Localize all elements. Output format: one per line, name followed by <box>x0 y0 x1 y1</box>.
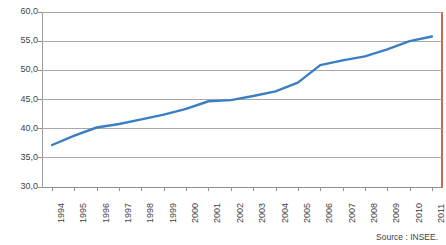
y-axis-tick-label: 35,0 <box>2 153 38 162</box>
x-axis-tick-label: 2005 <box>302 203 312 223</box>
x-axis-tick-label: 2008 <box>369 203 379 223</box>
y-axis-tick-label: 55,0 <box>2 36 38 45</box>
x-axis-tick-label: 1997 <box>123 203 133 223</box>
y-axis-tick-label: 60,0 <box>2 7 38 16</box>
y-axis-tick-label: 30,0 <box>2 182 38 191</box>
x-axis-tick-label: 1998 <box>145 203 155 223</box>
x-axis-tick-label: 2011 <box>436 204 446 223</box>
x-axis-tick-label: 2001 <box>212 203 222 223</box>
source-note: Source : INSEE. <box>376 232 438 242</box>
x-axis-tick-label: 1999 <box>168 203 178 223</box>
x-axis-labels: 1994199519961997199819992000200120022003… <box>42 191 442 231</box>
x-axis-tick-label: 1994 <box>56 203 66 223</box>
x-axis-tick-label: 2010 <box>414 203 424 223</box>
y-axis-tick-label: 40,0 <box>2 124 38 133</box>
x-axis-tick-label: 1996 <box>101 203 111 223</box>
x-axis-tick-label: 2004 <box>280 203 290 223</box>
y-axis-tick-label: 50,0 <box>2 65 38 74</box>
x-axis-tick-label: 2000 <box>190 203 200 223</box>
data-line-chart <box>42 12 442 187</box>
x-axis-tick-label: 2009 <box>391 203 401 223</box>
x-axis-tick-label: 2007 <box>347 203 357 223</box>
x-axis-tick-label: 2002 <box>235 203 245 223</box>
series-1-line <box>52 37 432 146</box>
x-axis-tick-label: 2006 <box>324 203 334 223</box>
x-axis-tick-label: 1995 <box>78 203 88 223</box>
y-axis-tick-label: 45,0 <box>2 95 38 104</box>
x-axis-tick-label: 2003 <box>257 203 267 223</box>
